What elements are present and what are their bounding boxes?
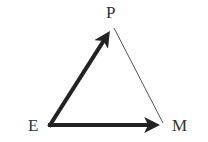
vertex-label-m: M — [172, 116, 187, 135]
edge-p-m-thin-line — [114, 28, 163, 123]
arrow-e-to-p — [50, 37, 106, 125]
vector-triangle-diagram: P E M — [0, 0, 208, 142]
vertex-label-p: P — [106, 3, 115, 22]
vertex-label-e: E — [28, 116, 38, 135]
